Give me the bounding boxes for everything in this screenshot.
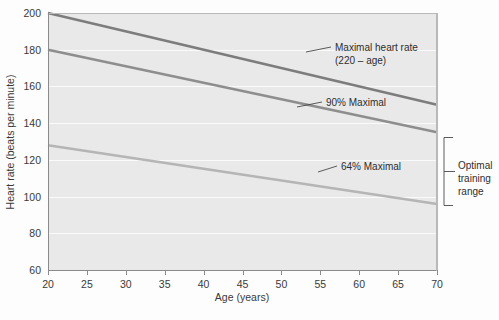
- y-tick-label-100: 100: [23, 191, 41, 203]
- annotation-ninety-percent: 90% Maximal: [326, 97, 386, 108]
- x-tick-label-20: 20: [42, 278, 54, 290]
- y-tick-label-120: 120: [23, 154, 41, 166]
- y-tick-label-180: 180: [23, 44, 41, 56]
- annotation-sixtyfour-percent: 64% Maximal: [341, 161, 401, 172]
- bracket-label-line2: training: [458, 173, 491, 184]
- heart-rate-training-zones-chart: 2025303540455055606570 60801001201401601…: [0, 0, 499, 320]
- x-tick-label-25: 25: [81, 278, 93, 290]
- bracket-label-line1: Optimal: [458, 160, 492, 171]
- x-tick-label-50: 50: [276, 278, 288, 290]
- x-tick-label-70: 70: [431, 278, 443, 290]
- x-tick-label-30: 30: [120, 278, 132, 290]
- x-tick-label-35: 35: [159, 278, 171, 290]
- y-tick-label-60: 60: [29, 264, 41, 276]
- chart-root: 2025303540455055606570 60801001201401601…: [0, 0, 499, 320]
- annotation-maximal-line2: (220 – age): [335, 55, 386, 66]
- y-axis-title: Heart rate (beats per minute): [4, 75, 16, 210]
- bracket-label-line3: range: [458, 186, 484, 197]
- x-tick-label-40: 40: [198, 278, 210, 290]
- y-tick-label-80: 80: [29, 227, 41, 239]
- x-tick-label-45: 45: [237, 278, 249, 290]
- y-tick-label-160: 160: [23, 80, 41, 92]
- x-tick-label-60: 60: [353, 278, 365, 290]
- x-axis-title: Age (years): [215, 291, 269, 303]
- x-tick-label-65: 65: [392, 278, 404, 290]
- x-tick-label-55: 55: [314, 278, 326, 290]
- annotation-maximal-line1: Maximal heart rate: [335, 42, 418, 53]
- y-tick-label-200: 200: [23, 7, 41, 19]
- y-tick-label-140: 140: [23, 117, 41, 129]
